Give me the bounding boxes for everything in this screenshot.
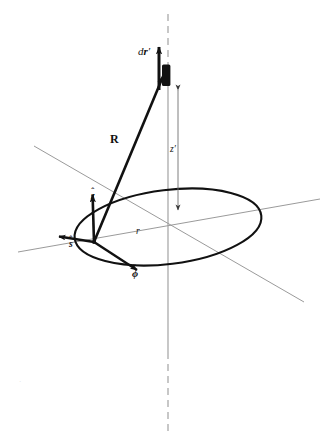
- label-unit-vector-phi: ˆ ϕ: [132, 269, 138, 280]
- label-vector-R: R: [110, 133, 119, 145]
- unit-vector-z-shaft: [93, 195, 94, 242]
- axis-line-y: [34, 146, 304, 302]
- label-z-prime-mark: ′: [174, 144, 176, 154]
- label-z-prime: z′: [170, 145, 176, 155]
- label-unit-vector-phi-accent: ˆ: [133, 264, 136, 274]
- label-unit-vector-s-accent: ˆ: [69, 235, 72, 244]
- unit-vector-phi-shaft: [94, 242, 137, 270]
- figure-canvas: [0, 0, 333, 444]
- loop-point-node: [92, 240, 96, 244]
- label-dr-prime: dr′: [138, 46, 150, 57]
- label-unit-vector-z: ˆ z: [91, 192, 95, 202]
- label-unit-vector-s: ˆ s: [69, 240, 73, 250]
- source-element-rect: [162, 65, 170, 87]
- label-unit-vector-z-accent: ˆ: [91, 187, 94, 196]
- label-radius-r: r: [136, 227, 140, 237]
- axis-line-x: [18, 199, 320, 252]
- figure-root: dr′ R z′ r ˆ z ˆ s ˆ ϕ ·: [0, 0, 333, 444]
- vector-R-shaft: [94, 76, 163, 242]
- scan-speck: ·: [19, 378, 21, 386]
- label-dr-prime-mark: ′: [148, 45, 150, 57]
